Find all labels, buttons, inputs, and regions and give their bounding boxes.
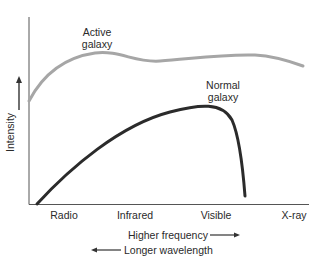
tick-radio: Radio [50,209,77,221]
wavelength-arrow-head [91,248,97,253]
normal-label-line1: Normal [206,79,240,91]
frequency-arrow-head [234,233,240,238]
chart-canvas [0,0,318,267]
active-galaxy-curve [29,53,303,101]
longer-wavelength-label: Longer wavelength [124,244,213,256]
intensity-arrow-head [16,76,22,83]
normal-label-line2: galaxy [206,91,240,103]
higher-frequency-label: Higher frequency [128,229,208,241]
y-axis-label: Intensity [4,113,16,152]
active-galaxy-label: Active galaxy [82,26,112,50]
tick-xray: X-ray [281,209,306,221]
tick-infrared: Infrared [117,209,153,221]
active-label-line2: galaxy [82,38,112,50]
normal-galaxy-curve [37,106,245,204]
tick-visible: Visible [201,209,232,221]
active-label-line1: Active [82,26,112,38]
normal-galaxy-label: Normal galaxy [206,79,240,103]
